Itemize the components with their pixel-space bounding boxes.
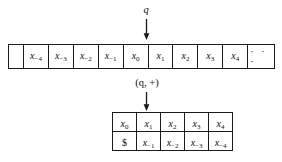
tape-cell: x2 [173, 45, 198, 68]
pair-table-cell: x4 [209, 113, 233, 132]
tape-cell-blank-left [9, 45, 24, 68]
pair-table-cell-label: x−2 [167, 137, 179, 148]
pair-table-cell-head: x1 [137, 113, 161, 132]
tape-cell-label: x−4 [30, 51, 42, 63]
tape-cell-label: x1 [157, 51, 165, 63]
pair-table-cell-label: x−1 [143, 137, 155, 148]
pair-table-cell: x0 [113, 113, 137, 132]
tape-cell: x−1 [99, 45, 124, 68]
pair-table-cell-label: x−4 [215, 137, 227, 148]
tape-cell: x3 [198, 45, 223, 68]
pair-table-cell-label: x2 [169, 118, 177, 129]
tape-cell-label: x−2 [80, 51, 92, 63]
pair-head-arrow-icon [139, 92, 154, 112]
tape-cell: x−3 [49, 45, 74, 68]
tape-cell-label: x0 [132, 51, 140, 63]
tape-head-arrow-icon [139, 19, 154, 41]
pair-table-row-top: x0 x1 x2 x3 x4 [113, 113, 233, 132]
pair-table-cell: x3 [185, 113, 209, 132]
tape-cell-label: x−1 [105, 51, 117, 63]
tape-head-state-label: q [124, 5, 168, 16]
pair-table-cell-label: x3 [193, 118, 201, 129]
pair-table-cell-label: x0 [121, 118, 129, 129]
pair-table-cell: x−1 [137, 132, 161, 151]
pair-state-label: (q, +) [112, 78, 182, 89]
pair-table-cell: x−4 [209, 132, 233, 151]
pair-table: x0 x1 x2 x3 x4 $ x−1 x−2 [112, 112, 233, 151]
pair-table-cell: x−2 [161, 132, 185, 151]
pair-table-cell-endmarker: $ [113, 132, 137, 151]
pair-table-cell: x2 [161, 113, 185, 132]
tape: x−4 x−3 x−2 x−1 x0 x1 x2 x3 x4 · · · [8, 44, 275, 69]
pair-table-cell: x−3 [185, 132, 209, 151]
tape-cell-label: x3 [206, 51, 214, 63]
tape-cell-label: x2 [181, 51, 189, 63]
tape-cell: x4 [223, 45, 248, 68]
tape-cell-head: x1 [149, 45, 174, 68]
turing-machine-tape-figure: q x−4 x−3 x−2 x−1 x0 x1 x2 x3 [0, 0, 282, 162]
tape-cell: x−2 [74, 45, 99, 68]
pair-table-cell-label: $ [122, 137, 127, 148]
pair-table-row-bottom: $ x−1 x−2 x−3 x−4 [113, 132, 233, 151]
tape-cell-label: x4 [231, 51, 239, 63]
tape-cell-label: x−3 [55, 51, 67, 63]
tape-cell: x−4 [24, 45, 49, 68]
pair-table-cell-label: x1 [145, 118, 153, 129]
pair-table-cell-label: x−3 [191, 137, 203, 148]
pair-table-cell-label: x4 [217, 118, 225, 129]
tape-cell: x0 [124, 45, 149, 68]
tape-ellipsis: · · · [248, 45, 274, 68]
tape-ellipsis-label: · · · [250, 47, 274, 67]
